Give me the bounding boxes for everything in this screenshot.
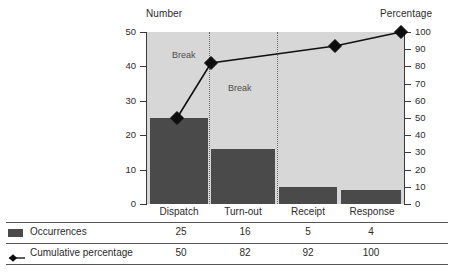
right-tick-80 [404,66,411,67]
right-tick-label-60: 60 [415,96,426,106]
category-label-receipt: Receipt [276,206,340,217]
legend-square-icon [8,228,24,237]
right-tick-label-40: 40 [415,130,426,140]
left-tick-10 [140,170,147,171]
table-cell: 100 [341,247,401,258]
right-tick-40 [404,135,411,136]
right-tick-60 [404,101,411,102]
right-tick-20 [404,170,411,171]
category-label-dispatch: Dispatch [147,206,211,217]
pareto-chart-figure: Number Percentage 50 40 30 20 10 0 100 9… [0,0,456,274]
marker-receipt [329,40,342,53]
left-tick-label-40: 40 [0,61,136,71]
category-label-turn-out: Turn-out [211,206,275,217]
left-tick-50 [140,32,147,33]
right-tick-50 [404,118,411,119]
table-row: Occurrences 25 16 5 4 [6,222,448,243]
left-tick-label-30: 30 [0,96,136,106]
marker-dispatch [171,112,184,125]
cumulative-percentage-line [147,32,404,204]
right-tick-label-0: 0 [415,199,420,209]
table-row-label: Occurrences [30,226,87,237]
right-tick-label-10: 10 [415,182,426,192]
right-tick-label-20: 20 [415,165,426,175]
table-cell: 4 [341,226,401,237]
table-row: Cumulative percentage 50 82 92 100 [6,243,448,264]
left-tick-label-0: 0 [0,199,136,209]
right-tick-label-100: 100 [415,27,431,37]
right-tick-label-70: 70 [415,79,426,89]
right-axis-title: Percentage [380,8,432,19]
left-tick-0 [140,204,147,205]
left-tick-label-50: 50 [0,27,136,37]
left-tick-label-20: 20 [0,130,136,140]
category-label-response: Response [339,206,405,217]
right-tick-10 [404,187,411,188]
right-tick-label-50: 50 [415,113,426,123]
right-tick-label-30: 30 [415,147,426,157]
cumulative-line-path [177,32,401,118]
left-tick-label-10: 10 [0,165,136,175]
left-tick-30 [140,101,147,102]
marker-turn-out [205,57,218,70]
table-cell: 50 [151,247,211,258]
table-cell: 82 [215,247,275,258]
table-row-label: Cumulative percentage [30,247,133,258]
table-cell: 25 [151,226,211,237]
right-tick-label-90: 90 [415,44,426,54]
table-rule-bottom [6,264,448,265]
table-cell: 92 [278,247,338,258]
table-cell: 16 [215,226,275,237]
left-tick-40 [140,66,147,67]
table-cell: 5 [278,226,338,237]
marker-response [395,26,408,39]
right-tick-70 [404,84,411,85]
right-tick-label-80: 80 [415,61,426,71]
left-axis-title: Number [146,8,182,19]
legend-line-diamond-icon [8,249,24,258]
right-tick-90 [404,49,411,50]
category-axis: Dispatch Turn-out Receipt Response [147,206,404,221]
left-tick-20 [140,135,147,136]
right-tick-30 [404,152,411,153]
right-tick-0 [404,204,411,205]
